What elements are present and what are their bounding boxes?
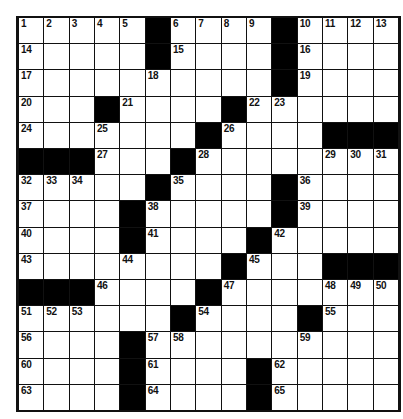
crossword-cell[interactable]: 60 [19, 359, 43, 384]
crossword-cell[interactable]: 23 [272, 97, 296, 122]
crossword-cell[interactable] [95, 332, 119, 357]
crossword-cell[interactable]: 26 [222, 123, 246, 148]
crossword-cell[interactable]: 8 [222, 18, 246, 43]
crossword-cell[interactable]: 61 [146, 359, 170, 384]
crossword-cell[interactable] [247, 44, 271, 69]
crossword-cell[interactable] [171, 201, 195, 226]
crossword-cell[interactable] [374, 175, 398, 200]
crossword-cell[interactable]: 64 [146, 385, 170, 410]
crossword-cell[interactable]: 10 [298, 18, 322, 43]
crossword-cell[interactable] [222, 332, 246, 357]
crossword-cell[interactable] [323, 332, 347, 357]
crossword-cell[interactable] [146, 280, 170, 305]
crossword-cell[interactable] [171, 97, 195, 122]
crossword-cell[interactable] [70, 332, 94, 357]
crossword-cell[interactable] [171, 359, 195, 384]
crossword-cell[interactable]: 50 [374, 280, 398, 305]
crossword-cell[interactable] [146, 97, 170, 122]
crossword-cell[interactable]: 62 [272, 359, 296, 384]
crossword-cell[interactable] [323, 44, 347, 69]
crossword-cell[interactable] [222, 201, 246, 226]
crossword-cell[interactable] [70, 123, 94, 148]
crossword-cell[interactable] [298, 254, 322, 279]
crossword-cell[interactable] [374, 44, 398, 69]
crossword-cell[interactable]: 34 [70, 175, 94, 200]
crossword-cell[interactable] [44, 44, 68, 69]
crossword-cell[interactable]: 35 [171, 175, 195, 200]
crossword-cell[interactable]: 40 [19, 228, 43, 253]
crossword-cell[interactable] [95, 254, 119, 279]
crossword-cell[interactable]: 20 [19, 97, 43, 122]
crossword-cell[interactable]: 45 [247, 254, 271, 279]
crossword-cell[interactable] [70, 254, 94, 279]
crossword-cell[interactable] [272, 332, 296, 357]
crossword-cell[interactable]: 37 [19, 201, 43, 226]
crossword-cell[interactable] [196, 44, 220, 69]
crossword-cell[interactable] [222, 70, 246, 95]
crossword-cell[interactable] [298, 97, 322, 122]
crossword-cell[interactable] [171, 280, 195, 305]
crossword-cell[interactable] [374, 228, 398, 253]
crossword-cell[interactable] [95, 44, 119, 69]
crossword-cell[interactable] [323, 359, 347, 384]
crossword-cell[interactable]: 31 [374, 149, 398, 174]
crossword-cell[interactable] [374, 359, 398, 384]
crossword-cell[interactable] [70, 97, 94, 122]
crossword-cell[interactable] [196, 228, 220, 253]
crossword-cell[interactable] [196, 201, 220, 226]
crossword-cell[interactable] [120, 175, 144, 200]
crossword-cell[interactable]: 18 [146, 70, 170, 95]
crossword-cell[interactable] [374, 70, 398, 95]
crossword-cell[interactable] [120, 149, 144, 174]
crossword-cell[interactable]: 42 [272, 228, 296, 253]
crossword-cell[interactable] [95, 306, 119, 331]
crossword-cell[interactable] [196, 385, 220, 410]
crossword-cell[interactable] [222, 385, 246, 410]
crossword-cell[interactable]: 49 [348, 280, 372, 305]
crossword-cell[interactable] [44, 97, 68, 122]
crossword-cell[interactable] [348, 97, 372, 122]
crossword-cell[interactable] [348, 306, 372, 331]
crossword-cell[interactable] [120, 70, 144, 95]
crossword-cell[interactable] [272, 123, 296, 148]
crossword-cell[interactable] [196, 175, 220, 200]
crossword-cell[interactable] [298, 228, 322, 253]
crossword-cell[interactable]: 43 [19, 254, 43, 279]
crossword-cell[interactable] [222, 149, 246, 174]
crossword-cell[interactable] [272, 280, 296, 305]
crossword-cell[interactable] [146, 149, 170, 174]
crossword-cell[interactable] [272, 254, 296, 279]
crossword-cell[interactable] [95, 359, 119, 384]
crossword-cell[interactable] [222, 175, 246, 200]
crossword-cell[interactable]: 5 [120, 18, 144, 43]
crossword-cell[interactable] [44, 228, 68, 253]
crossword-cell[interactable] [95, 201, 119, 226]
crossword-cell[interactable]: 24 [19, 123, 43, 148]
crossword-cell[interactable] [95, 385, 119, 410]
crossword-cell[interactable]: 39 [298, 201, 322, 226]
crossword-cell[interactable] [323, 228, 347, 253]
crossword-cell[interactable]: 56 [19, 332, 43, 357]
crossword-cell[interactable] [44, 123, 68, 148]
crossword-cell[interactable] [146, 123, 170, 148]
crossword-cell[interactable] [120, 123, 144, 148]
crossword-cell[interactable] [222, 306, 246, 331]
crossword-cell[interactable] [247, 123, 271, 148]
crossword-cell[interactable]: 21 [120, 97, 144, 122]
crossword-cell[interactable] [70, 359, 94, 384]
crossword-cell[interactable]: 51 [19, 306, 43, 331]
crossword-cell[interactable] [247, 332, 271, 357]
crossword-cell[interactable] [247, 280, 271, 305]
crossword-cell[interactable] [95, 228, 119, 253]
crossword-cell[interactable]: 17 [19, 70, 43, 95]
crossword-cell[interactable]: 52 [44, 306, 68, 331]
crossword-cell[interactable]: 33 [44, 175, 68, 200]
crossword-cell[interactable]: 65 [272, 385, 296, 410]
crossword-cell[interactable] [348, 175, 372, 200]
crossword-cell[interactable] [120, 306, 144, 331]
crossword-cell[interactable] [298, 123, 322, 148]
crossword-cell[interactable]: 2 [44, 18, 68, 43]
crossword-cell[interactable]: 14 [19, 44, 43, 69]
crossword-cell[interactable]: 16 [298, 44, 322, 69]
crossword-cell[interactable]: 25 [95, 123, 119, 148]
